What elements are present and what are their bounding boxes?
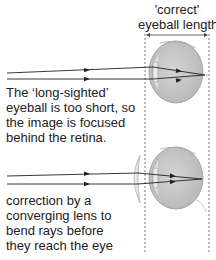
- title-line-1: 'correct': [138, 2, 216, 17]
- upper-caption: The ‘long-sighted’ eyeball is too short,…: [6, 85, 135, 145]
- lower-caption-line: bend rays before: [6, 223, 113, 238]
- lower-caption: correction by a converging lens to bend …: [6, 193, 113, 253]
- lower-caption-line: correction by a: [6, 193, 113, 208]
- lower-caption-line: converging lens to: [6, 208, 113, 223]
- converging-lens-icon: [134, 155, 140, 203]
- title-line-2: eyeball length: [138, 17, 216, 32]
- upper-caption-line: The ‘long-sighted’: [6, 85, 135, 100]
- eyeball-length-title: 'correct' eyeball length: [138, 2, 216, 32]
- upper-caption-line: eyeball is too short, so: [6, 100, 135, 115]
- lower-caption-line: they reach the eye: [6, 238, 113, 253]
- upper-caption-line: behind the retina.: [6, 130, 135, 145]
- upper-caption-line: the image is focused: [6, 115, 135, 130]
